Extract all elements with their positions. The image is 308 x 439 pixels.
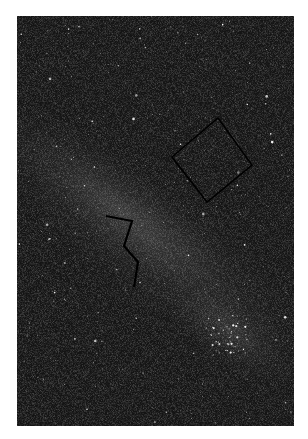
star-grain — [17, 16, 294, 426]
night-sky-photo: Dense star field with a diagonal Milky W… — [17, 16, 294, 426]
star-field-canvas — [17, 16, 294, 426]
